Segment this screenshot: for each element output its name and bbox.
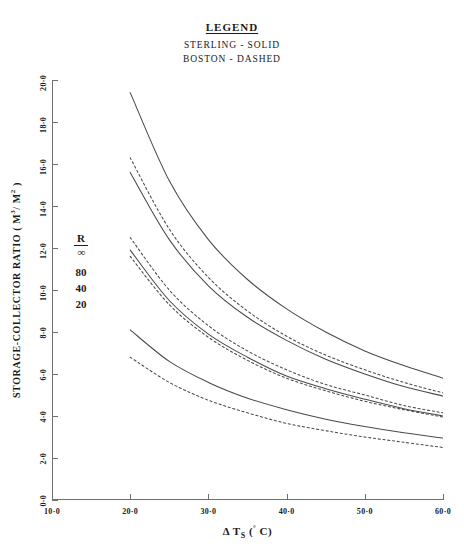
y-tick xyxy=(52,122,58,123)
y-axis-title-sup1: 3 xyxy=(9,210,17,214)
y-axis-title: STORAGE-COLLECTOR RATIO ( M3/ M2 ) xyxy=(8,80,24,500)
y-tick xyxy=(52,80,58,81)
y-tick-label: 16·0 xyxy=(27,159,49,169)
y-tick xyxy=(52,164,58,165)
y-tick xyxy=(52,500,58,501)
curve-key-numerator: R xyxy=(74,233,88,246)
x-tick xyxy=(365,494,366,500)
y-tick-label: 8·0 xyxy=(27,327,49,337)
y-tick-label-text: 20·0 xyxy=(39,75,49,91)
y-tick-label: 20·0 xyxy=(27,75,49,85)
x-tick-label: 20·0 xyxy=(122,507,138,516)
curve-key-value-40: 40 xyxy=(66,283,96,294)
y-tick-label: 2·0 xyxy=(27,453,49,463)
x-tick-label: 10·0 xyxy=(44,507,60,516)
curve-canvas xyxy=(52,80,443,500)
curve-key-denominator: ∞ xyxy=(74,246,88,258)
legend-entry-boston: BOSTON - DASHED xyxy=(0,53,464,67)
y-tick-label: 14·0 xyxy=(27,201,49,211)
y-tick xyxy=(52,374,58,375)
y-tick-label: 18·0 xyxy=(27,117,49,127)
y-tick xyxy=(52,248,58,249)
x-tick xyxy=(287,494,288,500)
y-tick xyxy=(52,206,58,207)
curve-key-value-20: 20 xyxy=(66,299,96,310)
y-tick-label-text: 6·0 xyxy=(39,369,49,381)
legend: LEGEND STERLING - SOLID BOSTON - DASHED xyxy=(0,14,464,66)
y-tick-label: 12·0 xyxy=(27,243,49,253)
chart-page: LEGEND STERLING - SOLID BOSTON - DASHED … xyxy=(0,0,464,554)
x-axis-title-t: T xyxy=(230,525,241,537)
x-tick-label: 60·0 xyxy=(435,507,451,516)
y-tick xyxy=(52,458,58,459)
y-tick-label-text: 18·0 xyxy=(39,117,49,133)
y-axis-title-text: STORAGE-COLLECTOR RATIO ( M xyxy=(12,214,23,398)
y-axis-title-end: ) xyxy=(12,182,23,189)
y-axis-title-sup2: 2 xyxy=(9,189,17,193)
curve-dashed-20 xyxy=(130,357,443,447)
curve-key-value-80: 80 xyxy=(66,267,96,278)
x-tick-label: 30·0 xyxy=(200,507,216,516)
legend-entry-sterling: STERLING - SOLID xyxy=(0,39,464,53)
curve-solid-40 xyxy=(130,250,443,416)
curve-dashed-inf xyxy=(130,158,443,393)
x-tick xyxy=(52,494,53,500)
y-axis-title-mid: / M xyxy=(12,193,23,210)
legend-title: LEGEND xyxy=(206,20,258,36)
x-tick-label: 40·0 xyxy=(279,507,295,516)
x-axis-title-c: C) xyxy=(256,525,272,537)
curve-key-fraction: R ∞ xyxy=(74,233,88,258)
y-tick-label-text: 0·0 xyxy=(39,495,49,507)
y-tick-label-text: 14·0 xyxy=(39,201,49,217)
x-tick xyxy=(443,494,444,500)
x-axis-title: Δ TS (° C) xyxy=(52,524,443,540)
x-tick xyxy=(130,494,131,500)
x-axis-title-delta: Δ xyxy=(223,525,230,537)
y-tick-label: 4·0 xyxy=(27,411,49,421)
curve-solid-inf xyxy=(130,93,443,379)
y-tick-label-text: 12·0 xyxy=(39,243,49,259)
y-tick xyxy=(52,416,58,417)
y-tick-label: 0·0 xyxy=(27,495,49,505)
y-tick-label-text: 4·0 xyxy=(39,411,49,423)
y-tick-label: 10·0 xyxy=(27,285,49,295)
y-tick-label-text: 10·0 xyxy=(39,285,49,301)
plot-area: 0·02·04·06·08·010·012·014·016·018·020·0 … xyxy=(52,80,443,500)
y-tick-label-text: 8·0 xyxy=(39,327,49,339)
x-tick-label: 50·0 xyxy=(357,507,373,516)
y-tick xyxy=(52,332,58,333)
y-tick xyxy=(52,290,58,291)
x-tick xyxy=(208,494,209,500)
x-axis-title-unit: ( xyxy=(246,525,253,537)
y-tick-label-text: 2·0 xyxy=(39,453,49,465)
y-tick-label-text: 16·0 xyxy=(39,159,49,175)
curve-key: R ∞ 80 40 20 xyxy=(66,233,96,310)
y-tick-label: 6·0 xyxy=(27,369,49,379)
